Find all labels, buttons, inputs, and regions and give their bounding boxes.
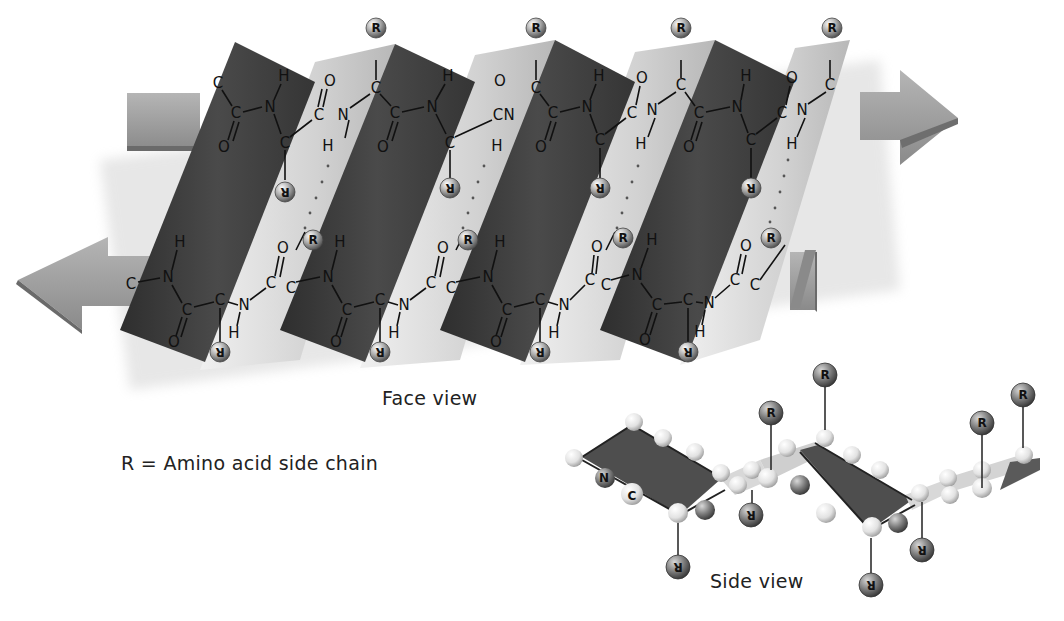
svg-text:C: C — [286, 279, 296, 297]
svg-text:O: O — [494, 72, 506, 90]
svg-text:O: O — [683, 138, 695, 156]
svg-text:H: H — [494, 233, 505, 251]
svg-text:C: C — [280, 134, 290, 152]
side-view: N C R R R R R R R R — [565, 363, 1040, 597]
r-ball-icon: R — [759, 401, 783, 425]
r-ball-icon: R — [741, 178, 761, 198]
svg-text:O: O — [168, 333, 180, 351]
r-ball-icon: R — [370, 342, 390, 362]
svg-text:H: H — [334, 233, 345, 251]
svg-text:R: R — [308, 233, 317, 247]
svg-text:H: H — [228, 324, 239, 342]
svg-text:C: C — [445, 134, 455, 152]
arrow-left-stub-icon — [127, 93, 200, 151]
svg-text:C: C — [371, 79, 381, 97]
r-ball-icon: R — [440, 178, 460, 198]
svg-text:N: N — [703, 294, 714, 312]
svg-text:H: H — [442, 67, 453, 85]
svg-text:O: O — [591, 238, 603, 256]
svg-text:O: O — [218, 138, 230, 156]
face-view-caption: Face view — [382, 387, 477, 409]
svg-text:C: C — [426, 274, 436, 292]
svg-text:C: C — [750, 276, 760, 294]
svg-text:C: C — [342, 301, 352, 319]
svg-text:C: C — [746, 131, 756, 149]
svg-text:C: C — [231, 104, 241, 122]
svg-text:C: C — [548, 104, 558, 122]
svg-text:R: R — [375, 345, 384, 359]
svg-text:R: R — [683, 345, 692, 359]
svg-text:R: R — [618, 231, 627, 245]
carbon-atom-icon: C — [621, 483, 643, 505]
svg-text:N: N — [558, 296, 569, 314]
svg-text:N: N — [503, 106, 514, 124]
beta-sheet-diagram: C C O N H C C O N H C C O N H C C O N H … — [0, 0, 1064, 621]
svg-text:C: C — [683, 291, 693, 309]
svg-text:C: C — [777, 104, 787, 122]
svg-text:N: N — [631, 266, 642, 284]
svg-text:C: C — [595, 131, 605, 149]
svg-text:C: C — [694, 104, 704, 122]
svg-text:O: O — [740, 237, 752, 255]
r-ball-icon: R — [822, 18, 842, 38]
svg-text:H: H — [786, 135, 797, 153]
r-ball-icon: R — [1011, 383, 1035, 407]
svg-text:C: C — [215, 291, 225, 309]
svg-text:O: O — [437, 239, 449, 257]
r-ball-icon: R — [666, 555, 690, 579]
r-ball-icon: R — [613, 228, 633, 248]
svg-text:R: R — [827, 21, 836, 35]
svg-text:C: C — [314, 106, 324, 124]
svg-text:O: O — [535, 138, 547, 156]
r-ball-icon: R — [678, 342, 698, 362]
svg-text:R: R — [463, 233, 472, 247]
svg-text:H: H — [548, 324, 559, 342]
arrow-right-stub-icon — [790, 250, 817, 312]
r-ball-icon: R — [739, 503, 763, 527]
svg-text:R: R — [595, 181, 604, 195]
svg-text:N: N — [398, 296, 409, 314]
svg-text:R: R — [531, 21, 540, 35]
svg-text:R: R — [917, 543, 926, 557]
svg-text:N: N — [264, 98, 275, 116]
svg-text:N: N — [581, 98, 592, 116]
svg-text:C: C — [502, 301, 512, 319]
svg-text:C: C — [825, 76, 835, 94]
svg-text:C: C — [652, 296, 662, 314]
r-ball-icon: R — [910, 538, 934, 562]
face-view: C C O N H C C O N H C C O N H C C O N H … — [16, 18, 958, 390]
svg-text:H: H — [388, 324, 399, 342]
svg-text:C: C — [535, 291, 545, 309]
svg-text:C: C — [266, 274, 276, 292]
svg-text:C: C — [493, 106, 503, 124]
svg-text:C: C — [585, 271, 595, 289]
r-ball-icon: R — [813, 363, 837, 387]
svg-text:R: R — [766, 406, 775, 420]
svg-text:C: C — [627, 104, 637, 122]
svg-text:C: C — [676, 76, 686, 94]
r-ball-icon: R — [275, 182, 295, 202]
svg-text:R: R — [673, 560, 682, 574]
svg-text:O: O — [277, 239, 289, 257]
r-ball-icon: R — [530, 342, 550, 362]
svg-text:C: C — [375, 291, 385, 309]
svg-text:R: R — [766, 231, 775, 245]
r-ball-icon: R — [761, 228, 781, 248]
svg-text:N: N — [337, 106, 348, 124]
svg-text:O: O — [377, 138, 389, 156]
svg-text:N: N — [162, 268, 173, 286]
svg-text:R: R — [215, 345, 224, 359]
svg-text:N: N — [482, 268, 493, 286]
svg-text:H: H — [694, 323, 705, 341]
legend-text: R = Amino acid side chain — [121, 452, 378, 474]
svg-text:R: R — [820, 368, 829, 382]
svg-text:R: R — [445, 181, 454, 195]
r-ball-icon: R — [366, 18, 386, 38]
svg-text:R: R — [535, 345, 544, 359]
svg-text:O: O — [786, 69, 798, 87]
r-ball-icon: R — [458, 230, 478, 250]
svg-text:N: N — [322, 268, 333, 286]
svg-text:O: O — [636, 69, 648, 87]
svg-text:C: C — [628, 489, 637, 503]
r-ball-icon: R — [303, 230, 323, 250]
